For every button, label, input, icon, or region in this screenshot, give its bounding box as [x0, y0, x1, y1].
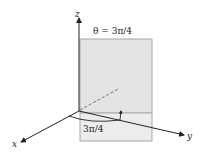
plane-equation-label: θ = 3π/4: [93, 26, 132, 36]
angle-label: 3π/4: [83, 124, 104, 134]
z-axis-label: z: [74, 9, 80, 19]
x-axis: [21, 111, 79, 142]
y-axis-label: y: [186, 131, 193, 141]
x-axis-label: x: [12, 139, 17, 149]
cylindrical-plane-diagram: z x y θ = 3π/4 3π/4: [0, 0, 205, 156]
